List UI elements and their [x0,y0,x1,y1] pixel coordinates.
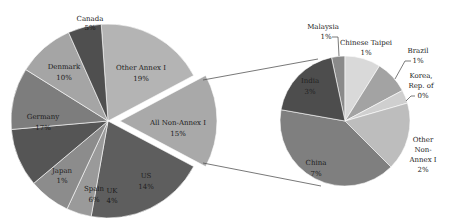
label-india-pct: 3% [304,88,315,96]
label-us-name: US [141,172,152,180]
label-non-annex-pct: 15% [170,130,186,138]
label-other-non-name1: Other [413,136,434,144]
label-denmark-name: Denmark [48,63,81,71]
label-china-pct: 7% [310,170,321,178]
label-korea-name2: Rep. of [408,82,435,90]
label-other-non-pct: 2% [417,166,428,174]
label-us-pct: 14% [138,183,154,191]
label-other-annex-pct: 19% [133,75,149,83]
label-canada-name: Canada [77,15,104,23]
label-spain-name: Spain [84,185,105,193]
label-germany-pct: 17% [35,124,51,132]
label-brazil-name: Brazil [408,47,430,55]
secondary-pie [280,56,410,186]
label-korea-name1: Korea, [409,72,432,80]
label-brazil-pct: 1% [412,57,423,65]
label-non-annex-name: All Non-Annex I [149,119,206,127]
label-denmark-pct: 10% [56,74,72,82]
label-other-non-name2: Non- [414,146,432,154]
label-india-name: India [301,77,319,85]
label-korea-pct: 0% [417,92,428,100]
label-other-non-name3: Annex I [408,156,436,164]
label-japan-pct: 1% [56,177,67,185]
label-uk-pct: 4% [106,197,117,205]
label-malaysia-name: Malaysia [307,23,339,31]
label-taipei-name: Chinese Taipei [340,39,393,47]
bar-of-pie-chart: Canada 5% Denmark 10% Other Annex I 19% … [0,0,454,218]
label-canada-pct: 5% [84,24,95,32]
label-germany-name: Germany [27,113,59,121]
label-uk-name: UK [106,187,118,195]
label-japan-name: Japan [51,167,73,175]
label-taipei-pct: 1% [360,49,371,57]
label-china-name: China [306,159,327,167]
label-other-annex-name: Other Annex I [116,64,166,72]
label-spain-pct: 6% [88,196,99,204]
label-malaysia-pct: 1% [320,33,331,41]
